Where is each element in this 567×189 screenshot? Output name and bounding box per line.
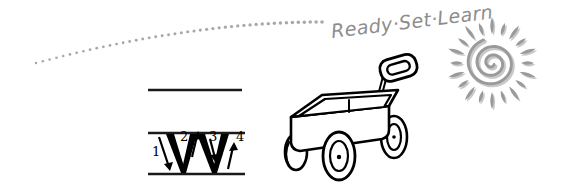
- trail-dot: [199, 29, 202, 32]
- trail-dot: [109, 44, 112, 47]
- wagon-wheel-front-left: [323, 132, 355, 180]
- trail-dot: [273, 22, 276, 25]
- trail-dot: [261, 22, 264, 25]
- trail-dot: [192, 29, 195, 32]
- trail-dot: [314, 20, 318, 24]
- trail-dot: [186, 30, 189, 33]
- trail-dot: [180, 31, 183, 34]
- trail-dot: [303, 20, 307, 24]
- trail-dot: [62, 55, 65, 58]
- trail-dot: [128, 40, 131, 43]
- ready-set-learn-artwork: Ready·Set·Learn: [0, 0, 567, 189]
- trail-dot: [148, 36, 151, 39]
- trail-dot: [236, 24, 239, 27]
- trail-dot: [42, 60, 45, 63]
- trail-dot: [55, 56, 58, 59]
- trail-dot: [308, 20, 312, 24]
- trail-dot: [218, 26, 221, 29]
- trail-dot: [48, 58, 51, 61]
- trail-dot: [285, 21, 288, 24]
- stroke-number-4: 4: [236, 129, 244, 144]
- trail-dot: [69, 53, 72, 56]
- trail-dot: [248, 23, 251, 26]
- trail-dot: [267, 22, 270, 25]
- trail-dot: [115, 43, 118, 46]
- trail-dot: [279, 21, 282, 24]
- illustration-canvas: Ready·Set·Learn: [0, 0, 567, 189]
- stroke-number-1: 1: [152, 144, 160, 159]
- trail-dot: [95, 47, 98, 50]
- trail-dot: [230, 25, 233, 28]
- trail-dot: [173, 32, 176, 35]
- trail-dot: [75, 51, 78, 54]
- trail-dot: [161, 34, 164, 37]
- trail-dot: [82, 50, 85, 53]
- trail-dot: [122, 41, 125, 44]
- trail-dot: [205, 28, 208, 31]
- trail-dot: [135, 39, 138, 42]
- trail-dot: [35, 62, 38, 65]
- trail-dot: [211, 27, 214, 30]
- trail-dot: [254, 23, 257, 26]
- trail-dot: [102, 45, 105, 48]
- trail-dot: [297, 21, 300, 24]
- trail-dot: [89, 48, 92, 51]
- stroke-number-2: 2: [180, 129, 188, 144]
- trail-dot: [154, 35, 157, 38]
- trail-dot: [141, 38, 144, 41]
- trail-dot: [320, 20, 324, 24]
- trail-dot: [224, 26, 227, 29]
- trail-dot: [242, 24, 245, 27]
- trail-dot: [167, 33, 170, 36]
- trail-dot: [291, 21, 294, 24]
